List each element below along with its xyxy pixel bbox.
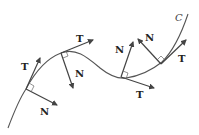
normal-label-3: N	[115, 44, 124, 55]
tangent-label-4: T	[178, 53, 186, 64]
frame-point-2: T N	[61, 33, 93, 88]
normal-label-2: N	[75, 68, 84, 79]
frame-point-1: T N	[21, 58, 57, 117]
curve-label: C	[175, 12, 183, 23]
tangent-label-1: T	[21, 61, 29, 72]
normal-vector-1	[26, 89, 57, 105]
normal-vector-2	[61, 53, 73, 88]
tangent-label-3: T	[136, 89, 144, 100]
curve-c	[8, 14, 188, 128]
normal-label-4: N	[145, 32, 154, 43]
curve-diagram: T N T N N T N T C	[0, 0, 199, 135]
tangent-label-2: T	[76, 33, 84, 44]
normal-label-1: N	[40, 106, 49, 117]
